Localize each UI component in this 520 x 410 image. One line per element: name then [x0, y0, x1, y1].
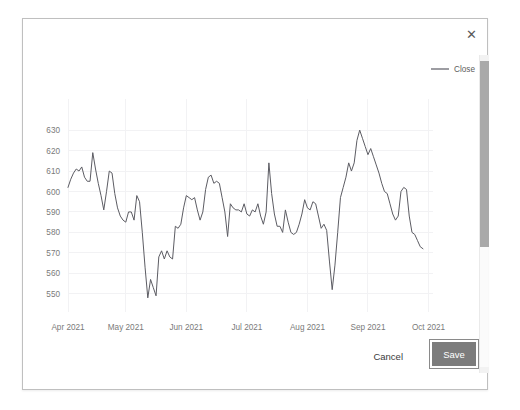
line-chart: 550560570580590600610620630 Apr 2021May … — [23, 47, 478, 347]
chart-legend: Close — [431, 65, 475, 74]
x-tick-label: Aug 2021 — [290, 323, 326, 332]
x-tick-label: Oct 2021 — [412, 323, 446, 332]
x-tick-label: Jul 2021 — [231, 323, 262, 332]
x-tick-label: Jun 2021 — [169, 323, 203, 332]
close-icon[interactable]: ✕ — [459, 22, 483, 46]
y-tick-label: 610 — [46, 167, 60, 176]
x-tick-label: Sep 2021 — [350, 323, 386, 332]
x-tick-label: Apr 2021 — [51, 323, 85, 332]
scrollbar-vertical[interactable] — [479, 55, 488, 373]
y-tick-label: 580 — [46, 228, 60, 237]
y-tick-label: 570 — [46, 249, 60, 258]
x-axis-ticks: Apr 2021May 2021Jun 2021Jul 2021Aug 2021… — [51, 323, 445, 332]
scrollbar-thumb[interactable] — [480, 61, 489, 247]
legend-entry-close: Close — [454, 65, 475, 74]
chart-gridlines — [68, 99, 433, 312]
y-tick-label: 600 — [46, 188, 60, 197]
save-button-focus-ring: Save — [429, 339, 479, 369]
chart-container: 550560570580590600610620630 Apr 2021May … — [23, 47, 478, 347]
cancel-button[interactable]: Cancel — [365, 345, 411, 367]
y-tick-label: 550 — [46, 290, 60, 299]
series-close-line — [68, 130, 423, 298]
x-tick-label: May 2021 — [108, 323, 144, 332]
y-tick-label: 630 — [46, 126, 60, 135]
chart-dialog: ✕ 550560570580590600610620630 Apr 2021Ma… — [22, 18, 488, 390]
save-button[interactable]: Save — [432, 342, 476, 366]
y-tick-label: 560 — [46, 269, 60, 278]
y-axis-ticks: 550560570580590600610620630 — [46, 126, 60, 299]
scrollbar-down-arrow[interactable] — [480, 367, 489, 373]
dialog-footer: Cancel Save — [23, 337, 487, 389]
y-tick-label: 620 — [46, 147, 60, 156]
y-tick-label: 590 — [46, 208, 60, 217]
